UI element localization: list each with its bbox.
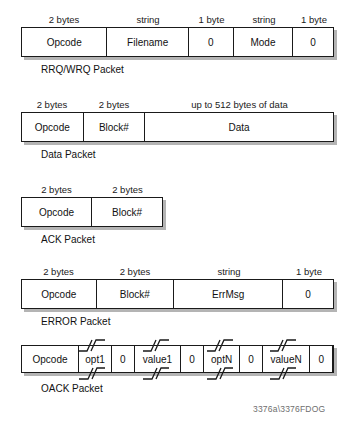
field-size-label: 1 byte xyxy=(294,12,334,27)
field-size-label: 1 byte xyxy=(284,264,334,279)
packet-field-zero: 0 xyxy=(240,346,263,372)
figure-id-watermark: 3376a\3376FDOG xyxy=(253,404,325,414)
packet-field-zero: 0 xyxy=(181,346,204,372)
field-size-label: 1 byte xyxy=(189,12,234,27)
packet-field-errmsg: ErrMsg xyxy=(174,280,283,308)
tftp-packet-format-diagram: 2 bytes string 1 byte string 1 byte Opco… xyxy=(0,0,355,430)
packet-field-box: Opcode opt1 0 value1 0 optN 0 valueN 0 xyxy=(21,345,334,373)
packet-field-valuen: valueN xyxy=(263,346,311,372)
field-size-headers: 2 bytes 2 bytes up to 512 bytes of data xyxy=(21,97,334,112)
packet-field-box: Opcode Block# Data xyxy=(21,112,334,142)
packet-field-box: Opcode Block# ErrMsg 0 xyxy=(21,279,334,309)
field-size-headers: 2 bytes 2 bytes xyxy=(21,182,163,197)
packet-field-zero: 0 xyxy=(310,346,333,372)
packet-field-opcode: Opcode xyxy=(22,198,92,226)
packet-caption: ERROR Packet xyxy=(41,315,334,329)
packet-field-opcode: Opcode xyxy=(22,28,107,56)
field-size-label: 2 bytes xyxy=(21,264,96,279)
packet-error: 2 bytes 2 bytes string 1 byte Opcode Blo… xyxy=(21,264,334,329)
field-size-label: 2 bytes xyxy=(92,182,163,197)
field-size-headers: 2 bytes string 1 byte string 1 byte xyxy=(21,12,334,27)
packet-field-filename: Filename xyxy=(107,28,188,56)
field-size-label: 2 bytes xyxy=(83,97,145,112)
packet-field-mode: Mode xyxy=(234,28,294,56)
packet-field-opcode: Opcode xyxy=(22,280,97,308)
packet-field-zero: 0 xyxy=(112,346,135,372)
field-size-label: 2 bytes xyxy=(21,97,83,112)
packet-field-box: Opcode Filename 0 Mode 0 xyxy=(21,27,334,57)
packet-field-data: Data xyxy=(145,113,333,141)
packet-field-block: Block# xyxy=(84,113,146,141)
field-size-label: 2 bytes xyxy=(96,264,174,279)
packet-caption: OACK Packet xyxy=(41,382,334,396)
packet-caption: RRQ/WRQ Packet xyxy=(41,63,334,77)
packet-data: 2 bytes 2 bytes up to 512 bytes of data … xyxy=(21,97,334,162)
packet-field-opcode: Opcode xyxy=(22,113,84,141)
packet-caption: Data Packet xyxy=(41,148,334,162)
packet-field-value1: value1 xyxy=(135,346,182,372)
packet-ack: 2 bytes 2 bytes Opcode Block# ACK Packet xyxy=(21,182,163,247)
field-size-label: 2 bytes xyxy=(21,12,107,27)
packet-rrq-wrq: 2 bytes string 1 byte string 1 byte Opco… xyxy=(21,12,334,77)
field-size-label: string xyxy=(174,264,284,279)
packet-field-opt1: opt1 xyxy=(79,346,112,372)
packet-field-zero: 0 xyxy=(293,28,333,56)
packet-field-optn: optN xyxy=(204,346,240,372)
packet-field-block: Block# xyxy=(97,280,175,308)
packet-field-zero: 0 xyxy=(189,28,234,56)
packet-field-box: Opcode Block# xyxy=(21,197,163,227)
field-size-headers: 2 bytes 2 bytes string 1 byte xyxy=(21,264,334,279)
packet-field-block: Block# xyxy=(92,198,162,226)
field-size-label: string xyxy=(234,12,294,27)
field-size-label: string xyxy=(107,12,189,27)
packet-oack: Opcode opt1 0 value1 0 optN 0 valueN 0 xyxy=(21,345,334,396)
packet-field-zero: 0 xyxy=(283,280,333,308)
field-size-label: up to 512 bytes of data xyxy=(145,97,334,112)
field-size-label: 2 bytes xyxy=(21,182,92,197)
packet-field-opcode: Opcode xyxy=(22,346,79,372)
packet-caption: ACK Packet xyxy=(41,233,163,247)
